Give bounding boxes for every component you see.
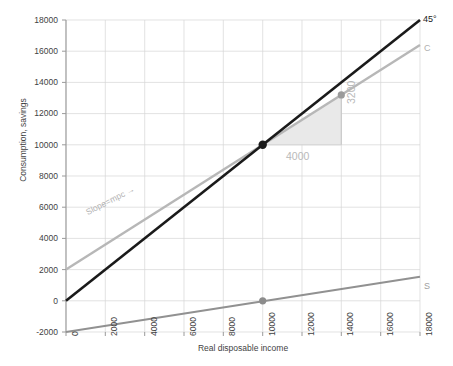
y-tick-label: 8000	[16, 171, 58, 181]
rise-annotation: 3200	[345, 81, 357, 104]
x-tick-label: 14000	[345, 312, 355, 336]
y-tick-label: 6000	[16, 202, 58, 212]
x-tick-label: 4000	[149, 317, 159, 336]
zero-savings-point-marker	[259, 297, 266, 304]
y-tick-label: 16000	[16, 46, 58, 56]
series-label-consumption: C	[424, 43, 431, 53]
y-tick-label: -2000	[16, 327, 58, 337]
y-axis-ticks	[62, 20, 66, 332]
y-tick-label: 12000	[16, 108, 58, 118]
x-tick-label: 6000	[188, 317, 198, 336]
y-tick-label: 2000	[16, 265, 58, 275]
consumption-savings-chart: Consumption, savings Real disposable inc…	[0, 0, 453, 366]
x-tick-label: 2000	[109, 317, 119, 336]
consumption-point-marker	[338, 91, 345, 98]
run-annotation: 4000	[286, 150, 309, 162]
break-even-point-marker	[259, 141, 267, 149]
y-tick-label: 10000	[16, 140, 58, 150]
y-tick-label: 4000	[16, 233, 58, 243]
x-tick-label: 8000	[227, 317, 237, 336]
x-axis-ticks	[66, 332, 420, 336]
x-tick-label: 0	[70, 331, 80, 336]
series-label-savings: S	[424, 281, 430, 291]
y-tick-label: 0	[16, 296, 58, 306]
x-axis-title: Real disposable income	[66, 343, 420, 353]
x-tick-label: 10000	[267, 312, 277, 336]
series-label-45-degree: 45°	[423, 14, 437, 24]
x-tick-label: 18000	[424, 312, 434, 336]
y-tick-label: 14000	[16, 77, 58, 87]
y-tick-label: 18000	[16, 15, 58, 25]
x-tick-label: 16000	[385, 312, 395, 336]
x-tick-label: 12000	[306, 312, 316, 336]
